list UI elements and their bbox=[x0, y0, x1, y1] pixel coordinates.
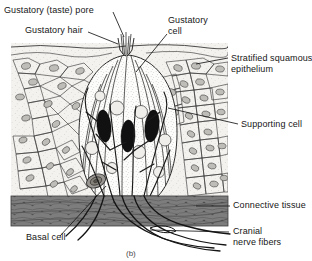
leader-gustatory-pore bbox=[113, 12, 124, 37]
taste-bud-illustration bbox=[0, 0, 312, 261]
label-cranial-line1: Cranial bbox=[233, 226, 262, 237]
label-cranial-line2: nerve fibers bbox=[233, 237, 281, 248]
label-gustatory-cell-line2: cell bbox=[168, 26, 182, 37]
label-basal-cell: Basal cell bbox=[26, 232, 66, 243]
leader-cranial-nerve bbox=[150, 230, 229, 232]
label-gustatory-cell-line1: Gustatory bbox=[168, 15, 208, 26]
taste-bud-figure: Gustatory (taste) pore Gustatory hair Gu… bbox=[0, 0, 312, 261]
label-supporting-cell: Supporting cell bbox=[241, 119, 302, 130]
label-gustatory-pore: Gustatory (taste) pore bbox=[4, 5, 94, 16]
label-stratified-epithelium-line1: Stratified squamous bbox=[231, 53, 312, 64]
leader-gustatory-hair bbox=[88, 32, 118, 44]
label-gustatory-hair: Gustatory hair bbox=[25, 25, 83, 36]
figure-caption: (b) bbox=[126, 249, 136, 258]
label-connective-tissue: Connective tissue bbox=[233, 200, 306, 211]
label-stratified-epithelium-line2: epithelium bbox=[231, 64, 273, 75]
